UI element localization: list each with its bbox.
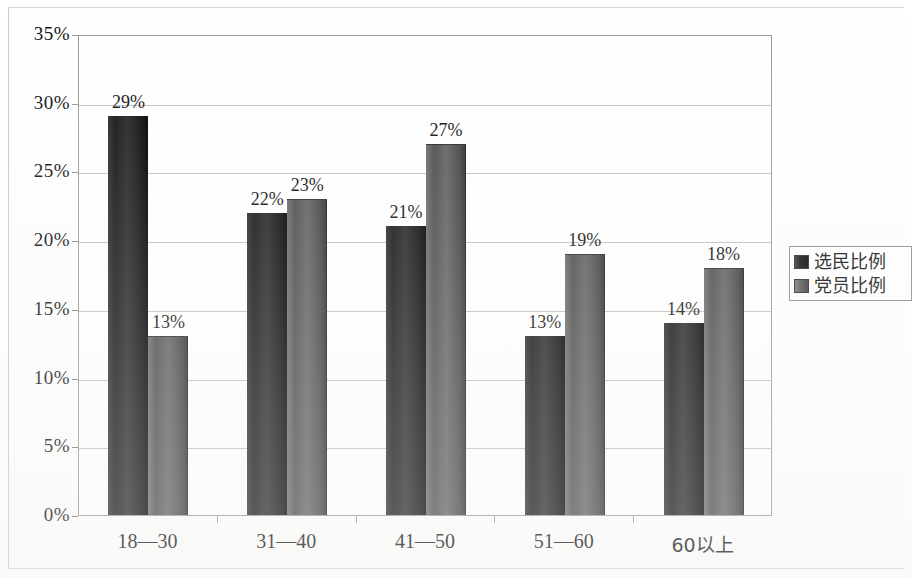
y-axis-tick-label: 20% (0, 229, 70, 251)
y-axis-tick-mark (72, 241, 78, 242)
y-axis-tick-label: 30% (0, 92, 70, 114)
y-axis-tick-mark (72, 35, 78, 36)
x-axis-category-label: 18—30 (67, 530, 227, 553)
bar-group: 29%13% (108, 36, 188, 515)
legend-label: 党员比例 (814, 277, 886, 295)
bar (426, 144, 466, 515)
x-axis-tick-mark (217, 516, 218, 523)
legend-item: 选民比例 (794, 250, 909, 274)
bar-group: 21%27% (386, 36, 466, 515)
bar (287, 199, 327, 515)
legend-swatch-icon (794, 255, 809, 269)
y-axis-tick-mark (72, 379, 78, 380)
bar-group: 14%18% (664, 36, 744, 515)
y-axis-tick-mark (72, 310, 78, 311)
x-axis-category-label: 41—50 (345, 530, 505, 553)
y-axis-tick-label: 15% (0, 298, 70, 320)
x-axis-category-label: 51—60 (484, 530, 644, 553)
y-axis-tick-label: 0% (0, 504, 70, 526)
y-axis-tick-label: 10% (0, 367, 70, 389)
y-axis-tick-label: 25% (0, 160, 70, 182)
bar-group: 13%19% (525, 36, 605, 515)
y-axis-tick-mark (72, 172, 78, 173)
legend-swatch-icon (794, 279, 809, 293)
bar-value-label: 29% (98, 92, 158, 113)
bar-value-label: 13% (138, 312, 198, 333)
bar (247, 213, 287, 515)
x-axis-category-label: 60以上 (623, 530, 783, 557)
y-axis-tick-mark (72, 447, 78, 448)
bar (386, 226, 426, 515)
y-axis-tick-mark (72, 516, 78, 517)
x-axis-tick-mark (356, 516, 357, 523)
grouped-bar-chart: 0%5%10%15%20%25%30%35% 29%13%22%23%21%27… (0, 0, 912, 578)
legend-label: 选民比例 (814, 253, 886, 271)
y-axis-tick-label: 35% (0, 23, 70, 45)
bar-value-label: 18% (694, 244, 754, 265)
y-axis: 0%5%10%15%20%25%30%35% (0, 0, 70, 578)
chart-legend: 选民比例党员比例 (789, 246, 912, 301)
x-axis-tick-mark (633, 516, 634, 523)
bar-value-label: 23% (277, 175, 337, 196)
bar-value-label: 19% (555, 230, 615, 251)
bar (148, 336, 188, 515)
y-axis-tick-mark (72, 104, 78, 105)
bar-group: 22%23% (247, 36, 327, 515)
bar (704, 268, 744, 515)
plot-area: 29%13%22%23%21%27%13%19%14%18% (78, 35, 772, 516)
x-axis-category-label: 31—40 (206, 530, 366, 553)
bar (565, 254, 605, 515)
y-axis-tick-label: 5% (0, 435, 70, 457)
legend-item: 党员比例 (794, 274, 909, 298)
x-axis-tick-mark (494, 516, 495, 523)
bar (525, 336, 565, 515)
bar (664, 323, 704, 515)
bar-value-label: 27% (416, 120, 476, 141)
